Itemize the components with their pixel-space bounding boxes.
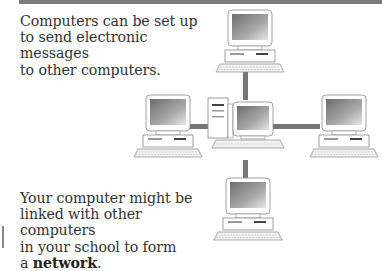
right-computer-icon [310, 95, 378, 157]
bottom-computer-icon [214, 178, 282, 240]
center-server-icon [208, 98, 284, 148]
top-computer-icon [216, 10, 284, 72]
